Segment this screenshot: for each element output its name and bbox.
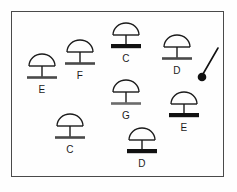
symbol-label: C — [104, 53, 148, 64]
umbrella-icon — [162, 88, 206, 122]
symbol-label: D — [155, 65, 199, 76]
symbol-label: E — [20, 84, 64, 95]
pin-marker[interactable] — [196, 46, 226, 86]
umbrella-icon — [155, 31, 199, 65]
diagram-canvas: E F C D — [0, 0, 237, 192]
pin-needle-icon — [196, 46, 226, 86]
symbol-label: C — [48, 144, 92, 155]
symbol-label: E — [162, 122, 206, 133]
symbol-label: G — [104, 110, 148, 121]
umbrella-icon — [48, 110, 92, 144]
umbrella-icon — [104, 76, 148, 110]
umbrella-icon — [58, 36, 102, 70]
symbol-label: D — [120, 158, 164, 169]
symbol-label: F — [58, 70, 102, 81]
umbrella-icon — [120, 124, 164, 158]
umbrella-icon — [104, 19, 148, 53]
